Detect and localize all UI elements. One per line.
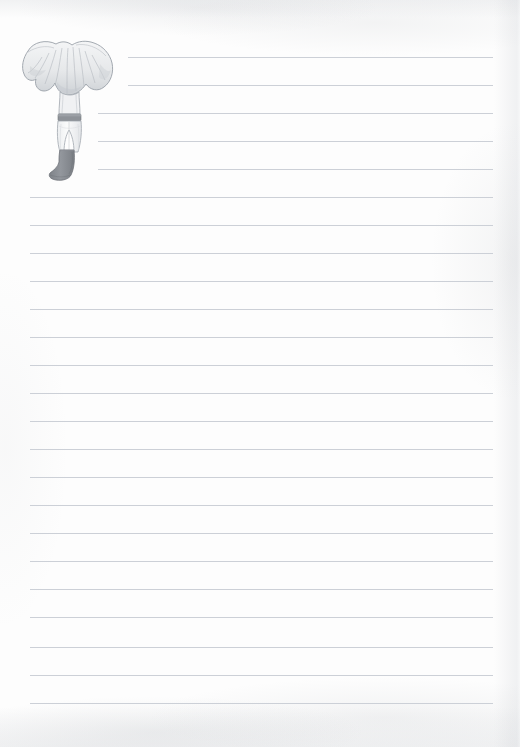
rule-line [98, 169, 493, 170]
boots [49, 150, 74, 180]
rule-line [30, 421, 493, 422]
rule-line [30, 449, 493, 450]
rule-line [30, 703, 493, 704]
rule-line [30, 533, 493, 534]
rule-line [30, 477, 493, 478]
rule-line [98, 141, 493, 142]
rule-line [30, 253, 493, 254]
mushroom-stem-torso [59, 92, 80, 114]
rule-line [30, 309, 493, 310]
rule-line [30, 365, 493, 366]
mushroom-cap-shape [23, 41, 113, 95]
rule-line [30, 393, 493, 394]
rule-line [30, 197, 493, 198]
rule-line [30, 561, 493, 562]
rule-line [30, 589, 493, 590]
notepaper-page [0, 0, 520, 747]
rule-line [30, 505, 493, 506]
rule-line [30, 675, 493, 676]
rule-line [30, 337, 493, 338]
rule-line [128, 57, 493, 58]
breeches-legs [57, 121, 81, 152]
belt-band [58, 114, 81, 121]
rule-line [30, 647, 493, 648]
rule-line [30, 225, 493, 226]
mushroom-figure-illustration [16, 36, 120, 184]
rule-line [98, 113, 493, 114]
rule-line [128, 85, 493, 86]
rule-line [30, 281, 493, 282]
rule-line [30, 617, 493, 618]
